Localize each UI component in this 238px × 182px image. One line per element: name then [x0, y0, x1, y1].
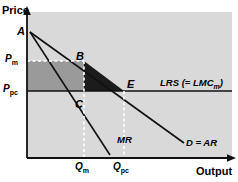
x-tick-qpc: Qpc: [113, 162, 129, 174]
y-tick-pm: Pm: [5, 54, 18, 66]
y-tick-ppc-base: P: [3, 83, 10, 94]
marginal-revenue-curve-label: MR: [117, 135, 132, 145]
y-tick-pm-sub: m: [12, 59, 18, 66]
x-axis-title: Output: [196, 166, 232, 177]
y-axis-title: Price: [2, 5, 29, 16]
demand-curve-label: D = AR: [186, 138, 217, 148]
lrs-label-tail: ): [220, 77, 223, 88]
point-label-b: B: [76, 51, 84, 62]
x-tick-qpc-sub: pc: [121, 167, 129, 174]
lrs-label-main: LRS (= LMC: [160, 77, 214, 88]
y-tick-pm-base: P: [5, 53, 12, 64]
x-tick-qm-base: Q: [75, 161, 83, 172]
point-label-c: C: [75, 99, 83, 110]
long-run-supply-curve-label: LRS (= LMCm): [160, 78, 223, 90]
y-tick-ppc: Ppc: [3, 84, 18, 96]
x-tick-qm: Qm: [75, 162, 89, 174]
x-tick-qm-sub: m: [83, 167, 89, 174]
y-tick-ppc-sub: pc: [10, 89, 18, 96]
economics-diagram-figure: Price Output A B C E Pm Ppc Qm Qpc D = A…: [0, 0, 238, 182]
x-tick-qpc-base: Q: [113, 161, 121, 172]
point-label-e: E: [127, 79, 134, 90]
point-label-a: A: [17, 26, 25, 37]
diagram-canvas: [0, 0, 238, 182]
